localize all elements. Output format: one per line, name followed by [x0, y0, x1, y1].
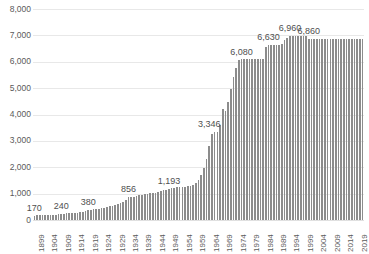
bar [311, 39, 313, 220]
bar [157, 192, 159, 220]
bar [85, 211, 87, 220]
data-label: 240 [54, 201, 69, 211]
x-tick-label: 1999 [307, 234, 315, 252]
bar [195, 183, 197, 220]
bar [103, 208, 105, 220]
bar [316, 39, 318, 220]
bar [168, 189, 170, 220]
bar [160, 191, 162, 220]
bar [338, 39, 340, 220]
bar [114, 205, 116, 220]
x-tick-label: 1994 [293, 234, 301, 252]
bar [359, 39, 361, 220]
bar [219, 125, 221, 220]
x-tick-label: 1954 [186, 234, 194, 252]
bar [50, 215, 52, 220]
bar [192, 185, 194, 220]
bar [58, 214, 60, 220]
x-tick-label: 1939 [145, 234, 153, 252]
bar [340, 39, 342, 220]
bar [321, 39, 323, 220]
bar [66, 213, 68, 220]
bar [144, 194, 146, 220]
bar [79, 212, 81, 220]
bar [136, 196, 138, 220]
bar [98, 209, 100, 220]
y-axis: 01,0002,0003,0004,0005,0006,0007,0008,00… [0, 0, 31, 229]
bar [173, 188, 175, 220]
bar [276, 45, 278, 220]
bar [356, 39, 358, 220]
y-tick-label: 3,000 [0, 136, 31, 145]
bar [319, 39, 321, 220]
x-tick-label: 1974 [240, 234, 248, 252]
bar [82, 212, 84, 220]
bar [297, 36, 299, 220]
bar [125, 200, 127, 220]
bar [262, 59, 264, 220]
bar [179, 187, 181, 220]
bar [112, 206, 114, 220]
bar [230, 89, 232, 220]
bar [203, 168, 205, 220]
bar [208, 146, 210, 220]
bar [251, 59, 253, 220]
bar [120, 203, 122, 220]
bar [243, 59, 245, 220]
bar [184, 187, 186, 220]
gridline-0 [33, 220, 364, 221]
bar [39, 215, 41, 220]
bar [305, 36, 307, 220]
bar [217, 132, 219, 220]
x-tick-label: 1934 [132, 234, 140, 252]
bar [128, 197, 130, 220]
x-tick-label: 1979 [253, 234, 261, 252]
bar [155, 193, 157, 220]
bar [233, 77, 235, 220]
bar [308, 39, 310, 220]
data-label: 856 [121, 184, 136, 194]
x-tick-label: 1949 [172, 234, 180, 252]
y-tick-label: 8,000 [0, 5, 31, 14]
bar [42, 215, 44, 220]
bar [68, 213, 70, 220]
data-label: 6,630 [257, 32, 280, 42]
bar [289, 36, 291, 220]
y-tick-label: 5,000 [0, 84, 31, 93]
bar [141, 195, 143, 220]
bar [268, 45, 270, 220]
bar [206, 159, 208, 220]
data-label: 3,346 [198, 119, 221, 129]
bar [63, 214, 65, 220]
bar [71, 213, 73, 220]
y-tick-label: 4,000 [0, 110, 31, 119]
x-tick-label: 1964 [213, 234, 221, 252]
x-tick-label: 1944 [159, 234, 167, 252]
bar [52, 215, 54, 220]
bar [165, 190, 167, 220]
x-tick-label: 2009 [334, 234, 342, 252]
bar [295, 36, 297, 220]
x-tick-label: 1899 [38, 234, 46, 252]
x-tick-label: 1959 [199, 234, 207, 252]
bar [60, 214, 62, 220]
bar [190, 186, 192, 220]
bar [130, 197, 132, 220]
bar [55, 215, 57, 220]
bar [260, 59, 262, 220]
x-tick-label: 2014 [347, 234, 355, 252]
bar [348, 39, 350, 220]
bar [214, 132, 216, 220]
x-tick-label: 1914 [78, 234, 86, 252]
x-tick-label: 1969 [226, 234, 234, 252]
x-tick-label: 2004 [320, 234, 328, 252]
bar [286, 38, 288, 220]
bar [227, 102, 229, 220]
x-tick-label: 1904 [51, 234, 59, 252]
bar [101, 208, 103, 220]
bar [265, 47, 267, 220]
bar [182, 187, 184, 220]
bar [313, 39, 315, 220]
bar [300, 36, 302, 220]
